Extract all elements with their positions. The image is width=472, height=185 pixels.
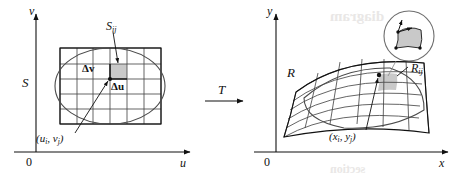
diagram-canvas <box>0 0 472 185</box>
subregion-subscript: ij <box>418 67 423 76</box>
magnified-corner-dot <box>394 46 397 49</box>
corner-point-mid: , v <box>47 132 57 144</box>
uv-origin-label: 0 <box>26 156 32 168</box>
image-point-close: ) <box>352 130 356 142</box>
image-point-label: (xi, yj) <box>329 131 356 143</box>
subrectangle-shade <box>110 64 127 79</box>
corner-point-close: ) <box>60 132 64 144</box>
magnified-corner-dot <box>418 46 421 49</box>
corner-point-label: (ui, vj) <box>36 133 63 145</box>
region-R-label: R <box>287 66 295 79</box>
leader-uv-point <box>75 81 108 133</box>
image-point-open: (x <box>329 130 338 142</box>
magnified-patch <box>396 28 422 48</box>
transformation-diagram: diagram section v 0 u S Sij Δv Δu (ui, v… <box>0 0 472 185</box>
transform-label: T <box>218 83 225 96</box>
bleed-through-bottom: section <box>330 162 365 177</box>
subrectangle-label: Sij <box>106 20 117 34</box>
u-axis-label: u <box>180 157 186 169</box>
subregion-label: Rij <box>411 62 423 76</box>
delta-u-label: Δu <box>111 81 124 92</box>
xy-mesh-cross <box>284 59 429 137</box>
xy-mesh <box>284 62 424 137</box>
region-S-label: S <box>22 76 29 89</box>
image-point-mid: , y <box>340 130 350 142</box>
v-axis-label: v <box>29 5 34 17</box>
delta-v-label: Δv <box>82 63 94 74</box>
subrectangle-subscript: ij <box>112 25 117 34</box>
image-point-dot <box>377 73 381 77</box>
corner-point-open: (u <box>36 132 45 144</box>
bleed-through-top: diagram <box>330 8 384 25</box>
y-axis-label: y <box>267 5 272 17</box>
x-axis-label: x <box>439 157 444 169</box>
xy-origin-label: 0 <box>264 156 270 168</box>
